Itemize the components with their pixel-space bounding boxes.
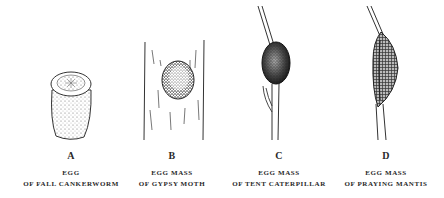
egg-mass-c-drawing — [258, 6, 290, 140]
caption-c: C EGG MASS OF TENT CATERPILLAR — [219, 150, 339, 190]
caption-line-1: EGG MASS — [219, 168, 339, 179]
caption-line-2: OF TENT CATERPILLAR — [219, 179, 339, 190]
caption-d: D EGG MASS OF PRAYING MANTIS — [326, 150, 444, 190]
caption-line-2: OF PRAYING MANTIS — [326, 179, 444, 190]
panel-letter: B — [112, 150, 232, 161]
panel-letter: C — [219, 150, 339, 161]
caption-line-1: EGG MASS — [326, 168, 444, 179]
egg-a-drawing — [51, 72, 91, 139]
egg-mass-d-drawing — [367, 6, 398, 140]
caption-b: B EGG MASS OF GYPSY MOTH — [112, 150, 232, 190]
panel-letter: D — [326, 150, 444, 161]
caption-line-2: OF GYPSY MOTH — [112, 179, 232, 190]
egg-mass-b-drawing — [144, 40, 204, 140]
caption-line-1: EGG MASS — [112, 168, 232, 179]
